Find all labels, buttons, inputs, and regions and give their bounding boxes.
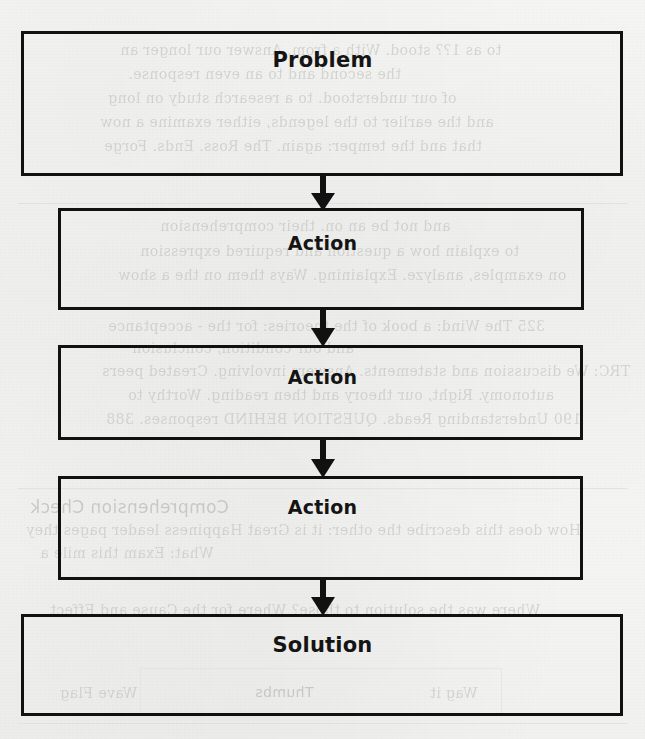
flowchart-node-action-3[interactable] <box>58 476 583 580</box>
flowchart-node-action-1[interactable] <box>58 208 584 310</box>
flowchart: Problem Action Action <box>0 0 645 739</box>
flowchart-node-action-2[interactable] <box>58 345 583 440</box>
flowchart-node-action-1-label: Action <box>0 232 645 254</box>
flowchart-node-solution[interactable] <box>21 614 623 716</box>
arrow-problem-to-action-1 <box>308 174 338 212</box>
flowchart-node-solution-label: Solution <box>0 633 645 657</box>
arrow-action-1-to-action-2 <box>308 307 338 348</box>
arrow-action-2-to-action-3 <box>308 437 338 479</box>
flowchart-node-problem-label: Problem <box>0 48 645 72</box>
arrow-action-3-to-solution <box>308 577 338 617</box>
flowchart-node-action-2-label: Action <box>0 366 645 388</box>
flowchart-node-action-3-label: Action <box>0 496 645 518</box>
diagram-canvas: to as 1?? stood. With a from. Answer our… <box>0 0 645 739</box>
